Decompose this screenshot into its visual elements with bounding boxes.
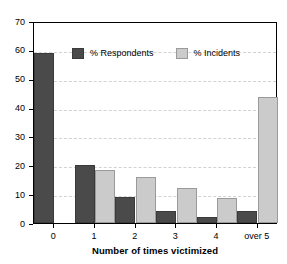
x-tick-label: 0 [51, 231, 56, 241]
x-tick-mark [216, 224, 217, 228]
bar-incidents [136, 177, 156, 223]
bar-respondents [34, 53, 54, 223]
x-tick-label: 3 [173, 231, 178, 241]
y-tick-label: 20 [15, 162, 25, 171]
legend-label: % Incidents [194, 49, 241, 58]
x-tick-label: 2 [132, 231, 137, 241]
legend-label: % Respondents [90, 49, 154, 58]
bar-respondents [237, 211, 257, 223]
bar-respondents [197, 217, 217, 223]
bar-incidents [258, 97, 278, 223]
x-tick-mark [53, 224, 54, 228]
y-tick-mark [29, 224, 33, 225]
legend-swatch-respondents [72, 48, 84, 59]
x-tick-mark [257, 224, 258, 228]
x-tick-label: 4 [213, 231, 218, 241]
bar-incidents [95, 170, 115, 223]
x-tick-mark [175, 224, 176, 228]
legend-item: % Respondents [72, 48, 154, 59]
x-tick-mark [135, 224, 136, 228]
y-tick-label: 0 [20, 220, 25, 229]
bar-respondents [75, 165, 95, 223]
legend-swatch-incidents [176, 48, 188, 59]
y-tick-label: 50 [15, 75, 25, 84]
plot-area: % Respondents% Incidents [33, 22, 277, 224]
y-tick-label: 60 [15, 46, 25, 55]
y-tick-label: 40 [15, 104, 25, 113]
x-tick-label: over 5 [244, 231, 269, 241]
y-axis: 010203040506070 [0, 0, 30, 264]
y-tick-label: 30 [15, 133, 25, 142]
x-axis-title: Number of times victimized [33, 245, 277, 256]
chart-legend: % Respondents% Incidents [72, 48, 240, 59]
bar-chart: 010203040506070 % Respondents% Incidents… [0, 0, 287, 264]
y-tick-label: 70 [15, 18, 25, 27]
y-tick-label: 10 [15, 191, 25, 200]
bar-incidents [177, 188, 197, 223]
x-tick-mark [94, 224, 95, 228]
bar-respondents [156, 211, 176, 223]
bar-incidents [217, 198, 237, 223]
bar-group [34, 23, 75, 223]
x-tick-label: 1 [91, 231, 96, 241]
bar-group [237, 23, 278, 223]
bar-respondents [115, 197, 135, 223]
legend-item: % Incidents [176, 48, 241, 59]
